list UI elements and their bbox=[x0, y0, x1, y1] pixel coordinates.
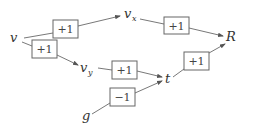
weight-label: +1 bbox=[168, 20, 184, 33]
edge-v-to-vy bbox=[22, 42, 32, 46]
weight-label: +1 bbox=[57, 23, 73, 36]
svg-text:x: x bbox=[132, 14, 137, 23]
weight-box-t-R: +1 bbox=[184, 52, 209, 70]
svg-text:y: y bbox=[87, 68, 93, 77]
edge-vy-to-t-arrow bbox=[137, 71, 162, 77]
svg-text:v: v bbox=[80, 60, 88, 75]
weight-box-g-t: −1 bbox=[110, 88, 135, 106]
node-g: g bbox=[82, 108, 90, 123]
edge-v-to-vx-arrow bbox=[78, 16, 120, 26]
edge-v-to-vy-arrow bbox=[57, 55, 78, 65]
edge-vx-to-R-arrow bbox=[189, 28, 223, 36]
edge-vx-to-R bbox=[140, 19, 164, 24]
weight-box-v-vy: +1 bbox=[32, 40, 57, 58]
svg-text:v: v bbox=[124, 6, 132, 21]
edge-g-to-t-arrow bbox=[135, 81, 162, 93]
edge-v-to-vx bbox=[24, 33, 53, 38]
node-v: v bbox=[10, 30, 18, 45]
node-vx: v x bbox=[124, 6, 137, 23]
node-R: R bbox=[225, 29, 236, 44]
weight-label: +1 bbox=[188, 55, 204, 68]
weight-box-vy-t: +1 bbox=[112, 61, 137, 79]
weight-label: −1 bbox=[114, 91, 130, 104]
weight-label: +1 bbox=[116, 64, 132, 77]
edge-t-to-R-arrow bbox=[209, 44, 225, 53]
edge-g-to-t bbox=[92, 103, 110, 114]
computation-graph: +1 +1 +1 +1 −1 +1 v v x R v y t g bbox=[0, 0, 253, 130]
node-t: t bbox=[165, 71, 171, 86]
weight-box-vx-R: +1 bbox=[164, 17, 189, 34]
node-vy: v y bbox=[80, 60, 93, 77]
edge-t-to-R bbox=[173, 69, 184, 77]
weight-box-v-vx: +1 bbox=[53, 20, 78, 38]
weight-label: +1 bbox=[36, 43, 52, 56]
edge-vy-to-t bbox=[98, 68, 112, 70]
